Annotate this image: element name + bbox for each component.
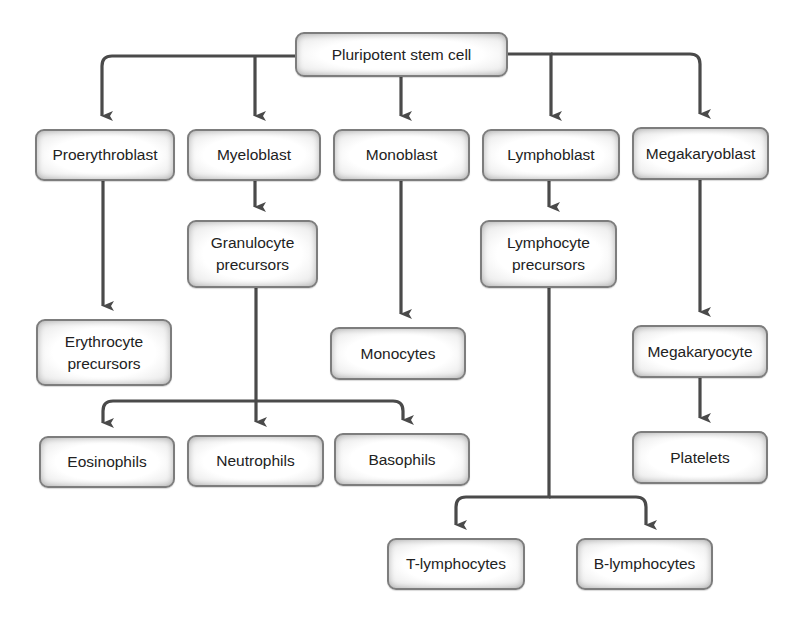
edge-lymphocyte-to-t — [456, 288, 549, 525]
node-b-lymphocytes: B-lymphocytes — [576, 538, 713, 590]
node-erythrocyte-precursors: Erythrocyte precursors — [36, 319, 172, 386]
edge-stem-to-lymphoblast — [507, 54, 551, 116]
node-proerythroblast: Proerythroblast — [35, 129, 175, 181]
node-myeloblast: Myeloblast — [187, 129, 321, 181]
node-lymphocyte-precursors: Lymphocyte precursors — [480, 220, 617, 288]
node-platelets: Platelets — [632, 431, 768, 484]
node-t-lymphocytes: T-lymphocytes — [387, 538, 525, 590]
node-megakaryocyte: Megakaryocyte — [632, 325, 768, 378]
node-monocytes: Monocytes — [330, 327, 466, 380]
node-megakaryoblast: Megakaryoblast — [632, 127, 769, 180]
edge-stem-to-proerythroblast — [102, 56, 296, 116]
node-basophils: Basophils — [334, 433, 470, 486]
node-lymphoblast: Lymphoblast — [482, 129, 620, 181]
node-eosinophils: Eosinophils — [39, 436, 175, 488]
connector-layer — [0, 0, 799, 617]
node-monoblast: Monoblast — [333, 129, 470, 181]
node-neutrophils: Neutrophils — [187, 435, 324, 487]
edge-lymphocyte-to-b — [549, 497, 646, 525]
node-pluripotent-stem-cell: Pluripotent stem cell — [295, 32, 508, 77]
edge-granulocyte-to-eosinophils — [103, 401, 256, 423]
edge-stem-to-megakaryoblast — [551, 54, 700, 114]
node-granulocyte-precursors: Granulocyte precursors — [187, 220, 318, 288]
edge-granulocyte-to-basophils — [256, 401, 403, 420]
